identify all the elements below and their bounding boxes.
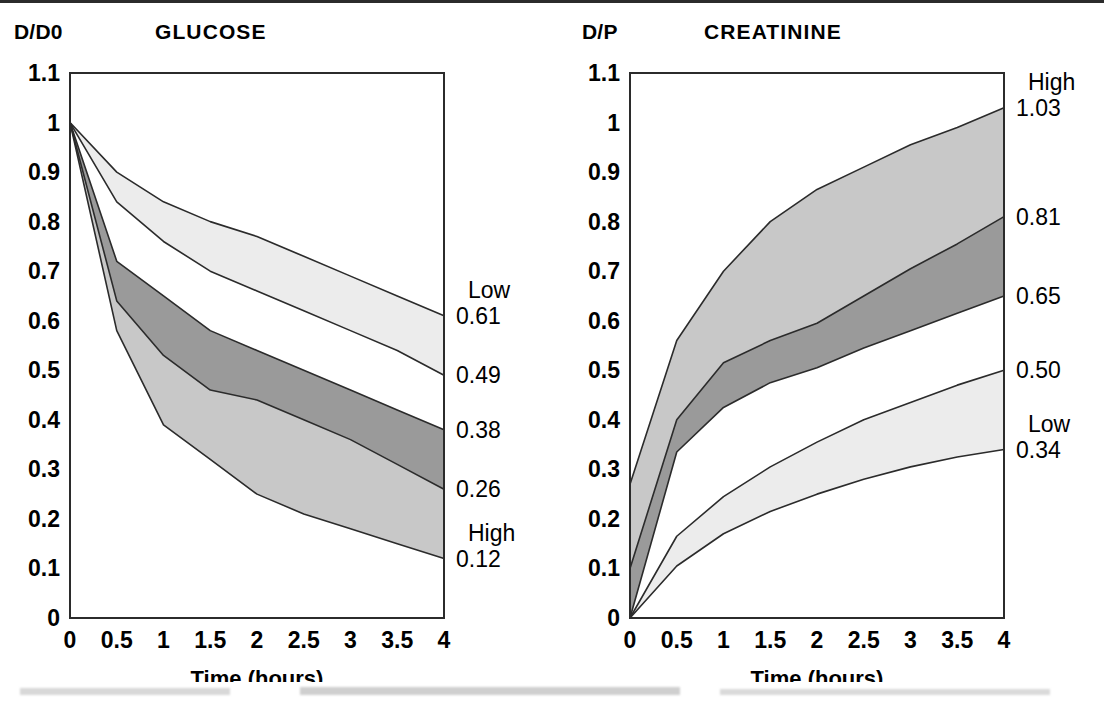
creatinine-ytick-0.9: 0.9: [588, 159, 620, 185]
glucose-panel-title: GLUCOSE: [155, 20, 267, 44]
creatinine-endlabel-high-word: High: [1028, 69, 1075, 95]
creatinine-ytick-0.2: 0.2: [588, 506, 620, 532]
creatinine-xtick-2: 2: [811, 627, 824, 653]
creatinine-ytick-0.1: 0.1: [588, 555, 620, 581]
creatinine-xtick-0: 0: [624, 627, 637, 653]
glucose-endlabel-v-026: 0.26: [456, 476, 501, 502]
creatinine-ytick-1: 1: [607, 110, 620, 136]
glucose-xtick-4: 4: [438, 627, 451, 653]
creatinine-endlabel-v-050: 0.50: [1016, 357, 1061, 383]
glucose-ytick-0.6: 0.6: [28, 308, 60, 334]
page-bottom-artifact: [0, 682, 1104, 704]
glucose-xtick-1: 1: [157, 627, 170, 653]
creatinine-panel-title: CREATININE: [704, 20, 842, 44]
scan-artifact-center: [300, 687, 680, 695]
glucose-endlabel-high-word: High: [468, 520, 515, 546]
glucose-xtick-3: 3: [344, 627, 357, 653]
glucose-ytick-0.1: 0.1: [28, 555, 60, 581]
glucose-plot-svg: 1.110.90.80.70.60.50.40.30.20.1000.511.5…: [0, 0, 552, 704]
panel-glucose: D/D0 GLUCOSE 1.110.90.80.70.60.50.40.30.…: [0, 0, 552, 704]
glucose-endlabel-low-word: Low: [468, 277, 511, 303]
creatinine-ytick-0.4: 0.4: [588, 407, 620, 433]
creatinine-xtick-3.5: 3.5: [941, 627, 973, 653]
glucose-xtick-2: 2: [251, 627, 264, 653]
creatinine-ytick-0.6: 0.6: [588, 308, 620, 334]
glucose-xtick-3.5: 3.5: [381, 627, 413, 653]
creatinine-endlabel-low-word: Low: [1028, 411, 1071, 437]
glucose-ytick-1.1: 1.1: [28, 60, 60, 86]
glucose-endlabel-high-value: 0.12: [456, 546, 501, 572]
creatinine-plot-svg: 1.110.90.80.70.60.50.40.30.20.1000.511.5…: [552, 0, 1104, 704]
creatinine-ytick-0: 0: [607, 605, 620, 631]
creatinine-xtick-0.5: 0.5: [661, 627, 693, 653]
creatinine-xtick-4: 4: [998, 627, 1011, 653]
glucose-endlabel-low-value: 0.61: [456, 303, 501, 329]
creatinine-endlabel-v-065: 0.65: [1016, 283, 1061, 309]
figure-page: D/D0 GLUCOSE 1.110.90.80.70.60.50.40.30.…: [0, 0, 1104, 704]
glucose-ytick-1: 1: [47, 110, 60, 136]
creatinine-xtick-1: 1: [717, 627, 730, 653]
creatinine-xtick-3: 3: [904, 627, 917, 653]
creatinine-endlabel-high-value: 1.03: [1016, 95, 1061, 121]
glucose-endlabel-v-049: 0.49: [456, 362, 501, 388]
creatinine-endlabel-low-value: 0.34: [1016, 437, 1061, 463]
glucose-ytick-0.7: 0.7: [28, 258, 60, 284]
glucose-xtick-0: 0: [64, 627, 77, 653]
glucose-xtick-0.5: 0.5: [101, 627, 133, 653]
creatinine-ytick-0.3: 0.3: [588, 456, 620, 482]
creatinine-ytick-0.8: 0.8: [588, 209, 620, 235]
creatinine-ytick-0.5: 0.5: [588, 357, 620, 383]
glucose-ytick-0.8: 0.8: [28, 209, 60, 235]
glucose-xtick-2.5: 2.5: [288, 627, 320, 653]
creatinine-endlabel-v-081: 0.81: [1016, 204, 1061, 230]
glucose-ytick-0: 0: [47, 605, 60, 631]
glucose-ytick-0.2: 0.2: [28, 506, 60, 532]
creatinine-ytick-1.1: 1.1: [588, 60, 620, 86]
scan-artifact-right: [720, 689, 1050, 695]
glucose-ytick-0.9: 0.9: [28, 159, 60, 185]
panel-creatinine: D/P CREATININE 1.110.90.80.70.60.50.40.3…: [552, 0, 1104, 704]
scan-artifact-left: [20, 688, 230, 695]
glucose-endlabel-v-038: 0.38: [456, 417, 501, 443]
glucose-ytick-0.5: 0.5: [28, 357, 60, 383]
glucose-ytick-0.3: 0.3: [28, 456, 60, 482]
glucose-unit-label: D/D0: [14, 20, 63, 44]
glucose-ytick-0.4: 0.4: [28, 407, 60, 433]
creatinine-unit-label: D/P: [582, 20, 618, 44]
glucose-xtick-1.5: 1.5: [194, 627, 226, 653]
creatinine-xtick-2.5: 2.5: [848, 627, 880, 653]
creatinine-xtick-1.5: 1.5: [754, 627, 786, 653]
creatinine-ytick-0.7: 0.7: [588, 258, 620, 284]
